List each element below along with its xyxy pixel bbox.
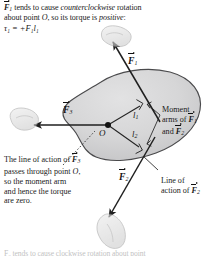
- vector-label-F1: F1: [128, 55, 137, 66]
- callout-moment-arms-line2-text: arms of: [162, 115, 189, 124]
- callout-moment-arms: Moment arms of F1 and F2: [162, 105, 197, 139]
- caption-top-text1b: rotation: [115, 3, 141, 12]
- caption-bl-vec-F3: F: [72, 155, 77, 165]
- callout-moment-arms-sub2: 2: [181, 130, 184, 136]
- caption-top-vec-F1: F: [4, 3, 9, 13]
- caption-bl-line1-text: The line of action of: [4, 155, 72, 164]
- caption-top-equation: τ₁ = +F₁l₁: [4, 24, 39, 33]
- vector-label-F2-sub: 2: [125, 176, 128, 182]
- vector-label-F3-sub: 3: [69, 109, 72, 115]
- callout-moment-arms-line3-text: and: [162, 127, 176, 136]
- callout-loa-line2: action of F2: [161, 186, 200, 198]
- caption-bl-line2-text: passes through point: [4, 167, 73, 176]
- callout-moment-arms-sub1: 1: [194, 118, 197, 124]
- vector-label-F2: F2: [119, 171, 128, 182]
- moment-arm-l2-sub: 2: [134, 133, 137, 139]
- callout-loa-sub: 2: [197, 189, 200, 195]
- moment-arm-label-l2: l2: [132, 129, 137, 139]
- caption-top-text1a: tends to cause: [12, 3, 60, 12]
- callout-moment-arms-line3: and F2: [162, 127, 197, 139]
- callout-loa-line2-text: action of: [161, 186, 192, 195]
- caption-top-em1: counterclockwise: [60, 3, 115, 12]
- caption-top-text2c: :: [124, 13, 126, 22]
- cut-off-caption: F₂ tends to cause clockwise rotation abo…: [4, 249, 146, 256]
- caption-top-em-positive: positive: [99, 13, 124, 22]
- vector-label-F1-sub: 1: [134, 60, 137, 66]
- caption-bl-line2-comma: ,: [78, 167, 80, 176]
- moment-arm-l1-sub: 1: [135, 114, 138, 120]
- caption-bl-line1: The line of action of F3: [4, 155, 80, 167]
- caption-bl-line2: passes through point O,: [4, 167, 80, 177]
- caption-bl-line4: and hence the torque: [4, 187, 80, 197]
- vector-label-F2-base: F: [119, 171, 125, 182]
- caption-bl-line5: are zero.: [4, 196, 80, 206]
- callout-line-of-action-F2: Line of action of F2: [161, 176, 200, 198]
- leader-line-of-action-F2: [143, 156, 158, 170]
- caption-top-text2b: , so its torque is: [47, 13, 99, 22]
- vector-label-F3-base: F: [63, 104, 69, 115]
- pivot-label-O: O: [99, 128, 106, 138]
- vector-label-F3: F3: [63, 104, 72, 115]
- caption-bottom-left: The line of action of F3 passes through …: [4, 155, 80, 206]
- moment-arm-label-l1: l1: [133, 110, 138, 120]
- vector-label-F1-base: F: [128, 55, 134, 66]
- callout-moment-arms-vec-F2: F: [176, 127, 181, 137]
- hand-grip-F2-icon: [97, 214, 125, 248]
- caption-top-text2a: about point: [4, 13, 42, 22]
- caption-bl-line3: so the moment arm: [4, 177, 80, 187]
- hand-grip-F3-icon: [10, 108, 38, 130]
- hand-grip-F1-icon: [101, 26, 131, 47]
- callout-moment-arms-vec-F1: F: [189, 115, 194, 125]
- caption-top-line2: about point O, so its torque is positive…: [4, 13, 126, 23]
- callout-loa-vec-F2: F: [192, 186, 197, 196]
